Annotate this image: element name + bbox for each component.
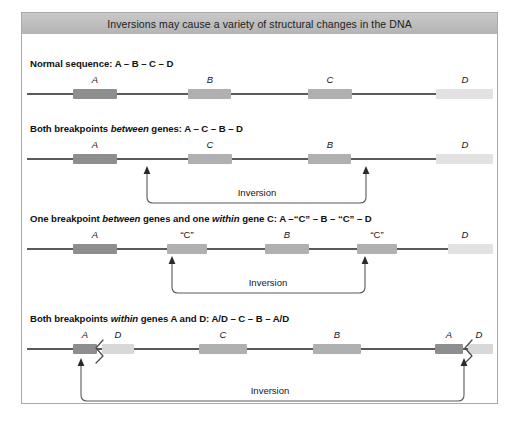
gene-label-d: D bbox=[462, 229, 469, 240]
gene-label-a: A bbox=[92, 229, 98, 240]
heading-post: genes and one bbox=[140, 213, 212, 224]
panel-heading: Both breakpoints within genes A and D: A… bbox=[30, 313, 289, 324]
panel-heading: One breakpoint between genes and one wit… bbox=[30, 213, 372, 224]
heading-italic-2: within bbox=[212, 213, 239, 224]
heading-post: genes A and D: A/D – C – B – A/D bbox=[138, 313, 289, 324]
heading-pre: One breakpoint bbox=[30, 213, 102, 224]
heading-italic: within bbox=[111, 313, 138, 324]
gene-label-a-right: A bbox=[446, 329, 452, 340]
panel-heading: Both breakpoints between genes: A – C – … bbox=[30, 123, 243, 134]
gene-label-b: B bbox=[334, 329, 340, 340]
inversion-label: Inversion bbox=[238, 187, 277, 198]
inversion-diagram-figure: Inversions may cause a variety of struct… bbox=[0, 0, 521, 427]
gene-label-d-right: D bbox=[476, 329, 483, 340]
heading-pre: Both breakpoints bbox=[30, 123, 111, 134]
gene-block-d bbox=[436, 89, 493, 99]
gene-block-b bbox=[188, 89, 231, 99]
heading-post: genes: A – C – B – D bbox=[149, 123, 243, 134]
heading-pre: Both breakpoints bbox=[30, 313, 111, 324]
gene-label-d: D bbox=[462, 74, 469, 85]
gene-label-b: B bbox=[327, 139, 333, 150]
gene-block-c bbox=[308, 89, 352, 99]
figure-title-bar: Inversions may cause a variety of struct… bbox=[22, 13, 497, 34]
gene-label-d-left: D bbox=[115, 329, 122, 340]
heading-italic: between bbox=[102, 213, 140, 224]
gene-label-d: D bbox=[462, 139, 469, 150]
figure-title: Inversions may cause a variety of struct… bbox=[107, 18, 412, 30]
panel-heading: Normal sequence: A – B – C – D bbox=[30, 58, 173, 69]
inversion-label: Inversion bbox=[251, 385, 290, 396]
gene-label-b: B bbox=[284, 229, 290, 240]
inversion-label: Inversion bbox=[249, 277, 288, 288]
gene-label-c: C bbox=[207, 139, 214, 150]
gene-label-c2: “C” bbox=[370, 229, 383, 240]
gene-label-c1: “C” bbox=[180, 229, 193, 240]
heading-post-2: gene C: A –“C” – B – “C” – D bbox=[240, 213, 372, 224]
gene-label-b: B bbox=[207, 74, 213, 85]
heading-pre: Normal sequence: A – B – C – D bbox=[30, 58, 173, 69]
gene-label-c: C bbox=[220, 329, 227, 340]
gene-block-a bbox=[73, 89, 117, 99]
gene-label-a-left: A bbox=[82, 329, 88, 340]
gene-label-c: C bbox=[327, 74, 334, 85]
chromosome-track bbox=[27, 87, 493, 103]
gene-label-a: A bbox=[92, 139, 98, 150]
heading-italic: between bbox=[111, 123, 149, 134]
gene-label-a: A bbox=[92, 74, 98, 85]
